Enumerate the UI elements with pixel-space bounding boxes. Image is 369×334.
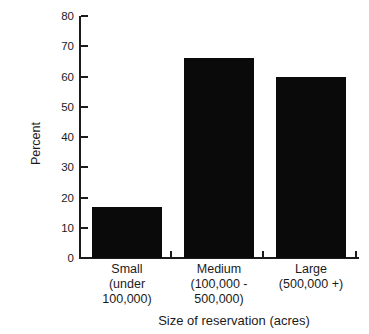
x-category-label: Large (500,000 +) [265, 262, 357, 292]
y-tick-label: 50 [40, 100, 74, 114]
y-tick-mark [81, 106, 88, 108]
y-tick-mark [81, 15, 88, 17]
bar-medium [184, 58, 254, 258]
bar-small [92, 207, 162, 258]
y-tick-label: 10 [40, 221, 74, 235]
y-tick-label: 40 [40, 130, 74, 144]
y-tick-mark [81, 197, 88, 199]
y-tick-mark [81, 45, 88, 47]
y-tick-mark [81, 76, 88, 78]
y-tick-mark [81, 227, 88, 229]
bar-large [276, 77, 346, 259]
x-category-label: Medium (100,000 - 500,000) [173, 262, 265, 307]
y-tick-label: 30 [40, 160, 74, 174]
y-tick-mark [81, 136, 88, 138]
y-tick-mark [81, 257, 88, 259]
y-tick-label: 0 [40, 251, 74, 265]
y-tick-label: 20 [40, 191, 74, 205]
x-category-label: Small (under 100,000) [81, 262, 173, 307]
x-axis-title: Size of reservation (acres) [99, 313, 369, 329]
x-tick-mark [262, 251, 264, 257]
y-tick-mark [81, 166, 88, 168]
y-tick-label: 80 [40, 9, 74, 23]
x-tick-mark [355, 251, 357, 257]
x-tick-mark [170, 251, 172, 257]
y-tick-label: 70 [40, 39, 74, 53]
bar-chart-figure: Percent 01020304050607080 Small (under 1… [0, 0, 369, 334]
y-tick-label: 60 [40, 70, 74, 84]
